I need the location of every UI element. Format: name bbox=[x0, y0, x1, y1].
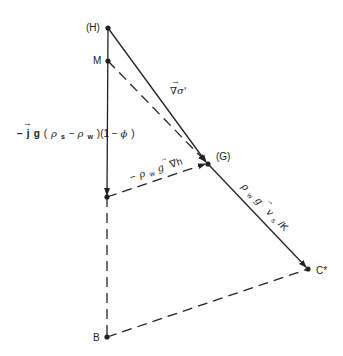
svg-text:− j g (: − j g ( ρ s − ρ w )(1 − ϕ ) bbox=[17, 123, 135, 142]
dashed-m-to-g bbox=[108, 61, 205, 161]
line-h-to-junction bbox=[107, 28, 108, 195]
point-m bbox=[105, 58, 110, 63]
dashed-b-to-c bbox=[107, 269, 308, 337]
point-junction bbox=[104, 194, 109, 199]
line-g-to-c bbox=[208, 164, 306, 267]
label-m: M bbox=[93, 55, 101, 66]
label-g: (G) bbox=[216, 151, 230, 162]
force-diagram: (H) M (G) C* B → ∇σ' → − j g ( ρ s − ρ w… bbox=[0, 0, 343, 356]
label-c: C* bbox=[316, 265, 327, 276]
line-h-to-g bbox=[108, 28, 206, 162]
point-b bbox=[104, 334, 109, 339]
label-h: (H) bbox=[86, 22, 100, 33]
point-c bbox=[305, 266, 310, 271]
point-h bbox=[105, 25, 110, 30]
svg-text:∇σ': ∇σ' bbox=[170, 85, 187, 96]
point-g bbox=[205, 161, 210, 166]
label-grad-sigma: → ∇σ' bbox=[170, 76, 187, 96]
label-b: B bbox=[93, 332, 100, 343]
label-buoyancy-vector: → − j g ( ρ s − ρ w )(1 − ϕ ) bbox=[17, 118, 135, 142]
svg-text:ρ w g v: ρ w g v s /K bbox=[237, 177, 295, 236]
svg-text:→: → bbox=[158, 153, 168, 164]
label-flux: ρ w g v s /K → bbox=[237, 175, 296, 235]
